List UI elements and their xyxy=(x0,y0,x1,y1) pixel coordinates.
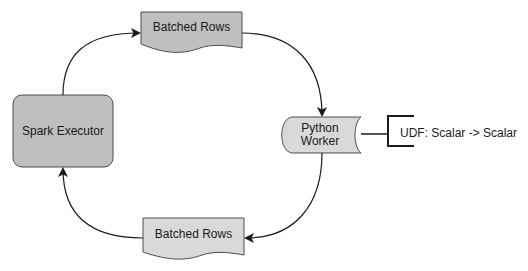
edge-batched-top-to-worker xyxy=(242,33,322,115)
diagram-canvas: Spark Executor Batched Rows Python Worke… xyxy=(0,0,528,271)
edge-worker-to-batched-bottom xyxy=(246,153,322,238)
udf-annotation-label: UDF: Scalar -> Scalar xyxy=(400,126,517,140)
spark-executor-node xyxy=(13,95,113,167)
batched-rows-top-node xyxy=(141,12,242,52)
edge-executor-to-batched-top xyxy=(63,33,139,95)
python-worker-node xyxy=(282,117,361,153)
batched-rows-bottom-node xyxy=(143,218,244,259)
edge-batched-bottom-to-executor xyxy=(63,169,143,238)
